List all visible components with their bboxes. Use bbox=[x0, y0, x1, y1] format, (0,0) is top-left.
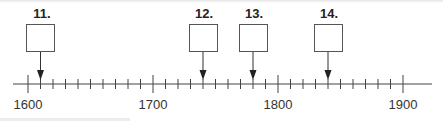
arrow-down-icon bbox=[200, 70, 207, 80]
arrow-down-icon bbox=[250, 70, 257, 80]
year-label-1900: 1900 bbox=[378, 97, 428, 112]
marker-label-12: 12. bbox=[184, 6, 224, 21]
year-label-1600: 1600 bbox=[3, 97, 53, 112]
marker-arrows bbox=[37, 52, 332, 80]
year-label-1700: 1700 bbox=[128, 97, 178, 112]
year-label-1800: 1800 bbox=[253, 97, 303, 112]
marker-label-11: 11. bbox=[22, 6, 62, 21]
answer-box-12[interactable] bbox=[189, 24, 218, 52]
answer-box-11[interactable] bbox=[26, 24, 55, 52]
answer-box-14[interactable] bbox=[314, 24, 343, 52]
marker-label-14: 14. bbox=[309, 6, 349, 21]
arrow-down-icon bbox=[37, 70, 44, 80]
marker-label-13: 13. bbox=[234, 6, 274, 21]
answer-box-13[interactable] bbox=[239, 24, 268, 52]
arrow-down-icon bbox=[325, 70, 332, 80]
